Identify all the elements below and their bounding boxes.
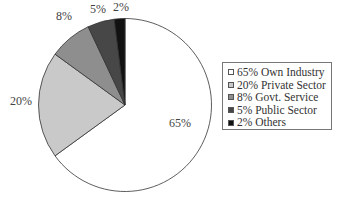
legend: 65% Own Industry 20% Private Sector 8% G… [222,62,332,130]
legend-label: 20% Private Sector [237,79,326,92]
legend-swatch-icon [228,82,234,88]
legend-swatch-icon [228,120,234,126]
slice-label: 2% [113,0,129,14]
legend-swatch-icon [228,107,234,113]
slice-label: 65% [169,116,191,130]
legend-item-govt-service: 8% Govt. Service [228,91,331,104]
legend-item-own-industry: 65% Own Industry [228,66,331,79]
legend-swatch-icon [228,69,234,75]
legend-item-public-sector: 5% Public Sector [228,104,331,117]
slice-label: 8% [56,9,72,23]
slice-label: 5% [90,2,106,16]
legend-label: 2% Others [237,116,286,129]
legend-label: 5% Public Sector [237,104,317,117]
pie-slices [39,18,212,191]
legend-label: 8% Govt. Service [237,91,318,104]
slice-label: 20% [10,94,32,108]
legend-label: 65% Own Industry [237,66,325,79]
legend-item-others: 2% Others [228,116,331,129]
legend-swatch-icon [228,94,234,100]
legend-item-private-sector: 20% Private Sector [228,79,331,92]
